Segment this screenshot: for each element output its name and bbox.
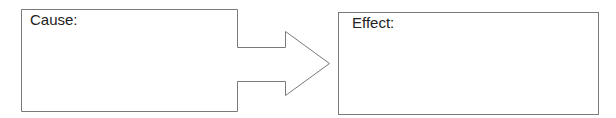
cause-effect-diagram <box>0 0 616 118</box>
cause-label: Cause: <box>30 12 78 27</box>
effect-label: Effect: <box>352 15 394 30</box>
